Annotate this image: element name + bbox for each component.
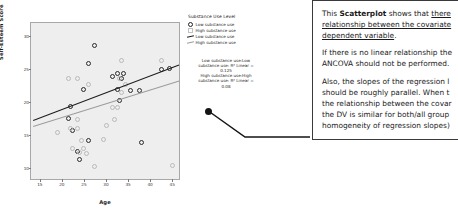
data-point (75, 117, 80, 122)
callout-paragraph-2: If there is no linear relationship theAN… (322, 47, 458, 69)
callout-p9: the DV is similar for both/all group (322, 110, 449, 119)
data-point (115, 71, 120, 76)
data-point (159, 58, 164, 63)
x-axis-title: Age (30, 199, 180, 205)
legend-swatch-icon (188, 34, 193, 39)
data-point (84, 151, 89, 156)
figure-root: Self-Esteem Score Age 152025303540451015… (0, 0, 458, 211)
y-tick-label: 15 (24, 132, 29, 137)
data-point (86, 61, 91, 66)
data-point (101, 137, 106, 142)
data-point (115, 105, 120, 110)
regression-line (33, 81, 179, 127)
callout-p3-end: . (394, 31, 396, 40)
plot-area: 152025303540451015202530 (30, 22, 180, 180)
callout-p1-a: This (322, 9, 339, 18)
legend-item-label: High substance use (196, 28, 236, 33)
data-point (110, 74, 115, 79)
legend-item-0: Low substance use (188, 22, 266, 27)
r-squared-annotations: Low substance use:Low substance use: R² … (186, 58, 266, 89)
legend-items: Low substance useHigh substance useLow s… (188, 22, 266, 46)
x-tick-label: 45 (170, 182, 175, 187)
data-point (79, 138, 84, 143)
data-point (121, 71, 126, 76)
callout-leader-line (200, 95, 310, 145)
data-point (119, 90, 124, 95)
data-point (119, 58, 124, 63)
data-point (117, 76, 122, 81)
data-point (86, 138, 91, 143)
callout-p6: Also, the slopes of the regression l (322, 77, 449, 86)
data-point (86, 82, 91, 87)
callout-panel: This Scatterplot shows that thererelatio… (312, 0, 458, 140)
legend-swatch-icon (188, 40, 193, 45)
x-tick-label: 30 (103, 182, 108, 187)
legend-item-3: High substance use (188, 40, 266, 45)
legend-title: Substance Use Level (188, 14, 266, 19)
callout-p1-bold: Scatterplot (339, 9, 386, 18)
data-point (75, 126, 80, 131)
data-point (110, 105, 115, 110)
x-tick-label: 25 (81, 182, 86, 187)
callout-p4: If there is no linear relationship the (322, 48, 452, 57)
x-tick-label: 40 (147, 182, 152, 187)
regression-line (33, 65, 179, 121)
data-point (55, 130, 60, 135)
chart-legend: Substance Use Level Low substance useHig… (188, 14, 266, 46)
legend-item-1: High substance use (188, 28, 266, 33)
callout-p7: should be roughly parallel. When t (322, 88, 449, 97)
y-tick-label: 25 (24, 67, 29, 72)
data-point (128, 88, 133, 93)
data-point (170, 163, 175, 168)
y-tick-label: 20 (24, 100, 29, 105)
legend-swatch-icon (188, 28, 193, 33)
data-point (81, 146, 86, 151)
data-point (81, 87, 86, 92)
callout-paragraph-3: Also, the slopes of the regression lshou… (322, 76, 458, 132)
scatterplot-figure: Self-Esteem Score Age 152025303540451015… (0, 0, 270, 211)
y-tick-label: 10 (24, 165, 29, 170)
data-point (75, 76, 80, 81)
y-axis-title: Self-Esteem Score (0, 0, 4, 60)
callout-paragraph-1: This Scatterplot shows that thererelatio… (322, 8, 458, 41)
callout-p3-u: dependent variable (322, 31, 394, 40)
legend-item-label: High substance use (196, 40, 236, 45)
legend-item-label: Low substance use (196, 34, 235, 39)
legend-swatch-icon (188, 22, 193, 27)
callout-p8: the relationship between the covar (322, 99, 452, 108)
legend-item-2: Low substance use (188, 34, 266, 39)
data-point (77, 157, 82, 162)
data-point (139, 140, 144, 145)
x-tick-label: 35 (125, 182, 130, 187)
x-tick-label: 15 (37, 182, 42, 187)
data-point (104, 123, 109, 128)
data-point (66, 116, 71, 121)
legend-item-label: Low substance use (196, 22, 235, 27)
data-point (66, 76, 71, 81)
data-point (92, 43, 97, 48)
callout-p10: homogeneity of regression slopes) (322, 121, 450, 130)
y-tick-label: 30 (24, 34, 29, 39)
rsq-high-value: 0.08 (186, 84, 266, 89)
data-point (112, 117, 117, 122)
x-tick-label: 20 (59, 182, 64, 187)
callout-p5: ANCOVA should not be performed. (322, 59, 449, 68)
data-point (92, 164, 97, 169)
callout-p1-b: shows that (386, 9, 431, 18)
callout-p2-u: relationship between the covariate (322, 20, 451, 29)
callout-p1-u: there (431, 9, 451, 18)
